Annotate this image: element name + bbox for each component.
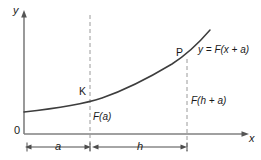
x-axis <box>24 131 249 137</box>
f-of-h-plus-a-label: F(h + a) <box>191 96 226 106</box>
x-axis-label: x <box>249 133 255 144</box>
f-of-a-label: F(a) <box>93 112 111 122</box>
function-curve <box>24 30 210 112</box>
y-axis <box>21 10 27 134</box>
curve-equation-label: y = F(x + a) <box>198 45 249 55</box>
point-k-label: K <box>79 86 86 97</box>
y-axis-arrowhead <box>21 10 27 18</box>
dimension-h-label: h <box>137 141 143 152</box>
dimension-a-label: a <box>55 141 61 152</box>
graph-canvas <box>0 0 261 160</box>
y-axis-label: y <box>13 5 19 16</box>
origin-label: 0 <box>14 125 20 136</box>
point-p-label: P <box>176 47 183 58</box>
graph-figure: y x 0 K P F(a) F(h + a) y = F(x + a) a h <box>0 0 261 160</box>
x-axis-arrowhead <box>242 131 250 137</box>
